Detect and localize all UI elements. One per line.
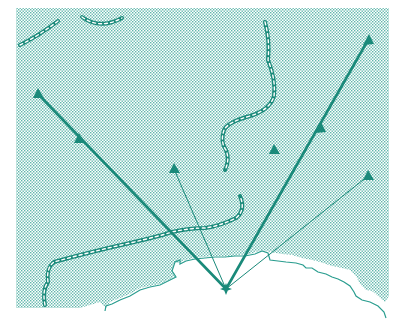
- map-canvas: [0, 0, 396, 328]
